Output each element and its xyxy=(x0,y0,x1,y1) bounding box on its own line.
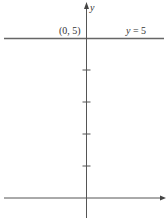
x-axis xyxy=(4,196,166,201)
y-axis xyxy=(84,2,89,218)
line-equation-label: y = 5 xyxy=(125,25,146,36)
x-axis-arrow-icon xyxy=(160,196,166,201)
y-axis-label: y xyxy=(89,2,95,13)
y-axis-arrow-icon xyxy=(84,2,89,9)
point-label: (0, 5) xyxy=(59,25,81,37)
graph-canvas: y (0, 5) y = 5 xyxy=(0,0,167,219)
